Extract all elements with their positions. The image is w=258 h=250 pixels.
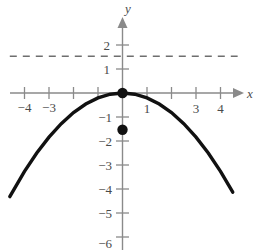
x-tick-label-3: 3 — [193, 101, 200, 116]
y-tick-label--3: −3 — [98, 158, 112, 173]
x-tick-label--4: −4 — [18, 100, 32, 115]
x-tick-label-4: 4 — [217, 101, 224, 116]
y-axis-arrow-icon — [118, 17, 128, 28]
x-tick-label-1: 1 — [144, 101, 151, 116]
y-axis-label: y — [123, 1, 131, 16]
y-tick-label-2: 2 — [104, 38, 111, 53]
coordinate-plane-svg: −4 −3 1 3 4 2 1 −1 −2 −3 −4 −5 −6 x y — [0, 0, 258, 250]
vertex-point-marker — [117, 88, 127, 98]
y-tick-label--5: −5 — [98, 206, 112, 221]
x-axis-label: x — [246, 86, 253, 101]
graph-figure: −4 −3 1 3 4 2 1 −1 −2 −3 −4 −5 −6 x y — [0, 0, 258, 250]
x-tick-label--3: −3 — [42, 100, 56, 115]
y-offset-point-marker — [117, 125, 127, 135]
y-tick-label-1: 1 — [104, 62, 111, 77]
y-tick-label--2: −2 — [98, 134, 112, 149]
x-axis-arrow-icon — [233, 88, 244, 98]
y-tick-label--4: −4 — [98, 182, 112, 197]
y-tick-label--6: −6 — [98, 236, 112, 250]
y-tick-label--1: −1 — [98, 110, 112, 125]
